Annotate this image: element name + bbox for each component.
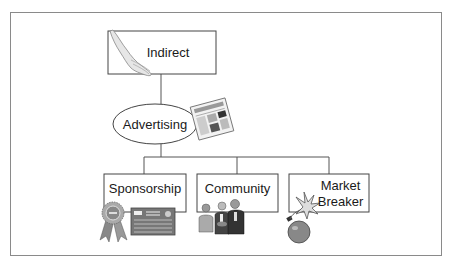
node-community-label: Community [197,181,278,196]
ribbon-certificate-icon [100,202,175,242]
node-market-breaker-label-line1: Market [312,178,369,193]
node-advertising-label: Advertising [118,117,192,132]
newspaper-icon [190,98,234,140]
diagram-canvas [0,0,450,265]
node-indirect-label: Indirect [128,45,208,60]
node-market-breaker-label-line2: Breaker [312,194,369,209]
people-handshake-icon [199,200,244,235]
node-sponsorship-label: Sponsorship [104,181,186,196]
